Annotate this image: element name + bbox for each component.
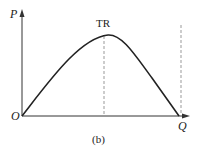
origin-label: O (11, 110, 20, 122)
tr-curve (22, 35, 179, 116)
y-axis-label: P (10, 8, 17, 20)
x-axis-arrow-icon (182, 114, 190, 119)
y-axis-arrow-icon (20, 9, 25, 17)
x-axis-label: Q (178, 120, 187, 132)
figure-caption: (b) (92, 134, 105, 145)
curve-label-tr: TR (96, 18, 110, 29)
